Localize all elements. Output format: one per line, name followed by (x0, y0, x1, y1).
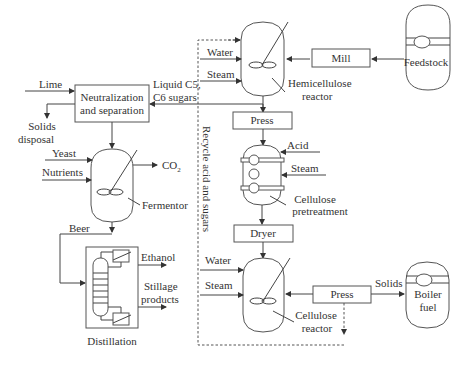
dryer-label: Dryer (250, 227, 276, 239)
co2-label: CO2 (162, 159, 181, 174)
steam-3-label: Steam (205, 279, 233, 291)
distillation-unit: Distillation (86, 247, 138, 347)
stillage-label-2: products (141, 293, 179, 305)
press-1-box: Press (233, 112, 292, 129)
beer-label: Beer (69, 222, 90, 234)
steam-2-label: Steam (291, 162, 319, 174)
cellulose-pretreatment-label-1: Cellulose (294, 193, 336, 205)
stillage-label-1: Stillage (144, 280, 178, 292)
water-2-label: Water (205, 254, 231, 266)
hemicellulose-label-1: Hemicellulose (288, 77, 352, 89)
nutrients-label: Nutrients (42, 166, 83, 178)
mill-box: Mill (312, 49, 370, 67)
cellulose-pretreatment-vessel: Cellulose pretreatment (241, 145, 348, 217)
solids-label: Solids (375, 277, 403, 289)
mill-label: Mill (332, 52, 351, 64)
boiler-fuel-vessel: Boiler fuel (406, 262, 449, 328)
distillation-label: Distillation (87, 335, 137, 347)
hemicellulose-label-2: reactor (302, 90, 333, 102)
cellulose-reactor-label-2: reactor (302, 322, 333, 334)
yeast-label: Yeast (52, 147, 76, 159)
recycle-label: Recycle acid and sugars (201, 126, 213, 232)
solids-disposal-label-2: disposal (18, 133, 54, 145)
lime-label: Lime (39, 78, 62, 90)
boiler-fuel-label-1: Boiler (414, 288, 442, 300)
feedstock-label: Feedstock (404, 56, 449, 68)
cellulose-pretreatment-label-2: pretreatment (292, 205, 348, 217)
dryer-box: Dryer (234, 225, 293, 242)
liquid-sugars-label-2: C6 sugars (153, 91, 197, 103)
ethanol-label: Ethanol (141, 251, 175, 263)
press-2-label: Press (330, 288, 353, 300)
process-flow-diagram: Feedstock Mill Hemicellulose reactor Wat… (0, 0, 468, 367)
neutralization-box: Neutralization and separation (75, 85, 149, 122)
neutralization-label-1: Neutralization (81, 91, 144, 103)
press-1-label: Press (250, 114, 273, 126)
neutralization-label-2: and separation (80, 104, 144, 116)
water-1-label: Water (207, 46, 233, 58)
steam-1-label: Steam (207, 68, 235, 80)
solids-disposal-label-1: Solids (28, 120, 56, 132)
liquid-sugars-label-1: Liquid C5, (153, 78, 201, 90)
cellulose-reactor-label-1: Cellulose (295, 309, 337, 321)
boiler-fuel-label-2: fuel (419, 301, 436, 313)
feedstock-vessel: Feedstock (404, 5, 450, 90)
press-2-box: Press (313, 286, 371, 303)
acid-label: Acid (287, 139, 309, 151)
fermentor-label: Fermentor (142, 199, 188, 211)
